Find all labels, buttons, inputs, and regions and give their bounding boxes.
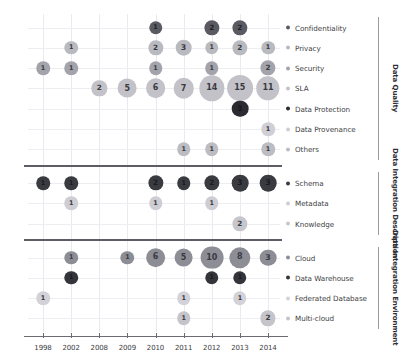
data-bubble: 14 xyxy=(199,76,224,101)
legend-label: Privacy xyxy=(295,43,321,52)
data-bubble: 1 xyxy=(233,271,247,285)
legend-item[interactable]: Confidentiality xyxy=(286,23,347,32)
data-bubble: 2 xyxy=(260,311,275,326)
legend-dot-icon xyxy=(286,222,290,226)
gridline-horizontal xyxy=(28,149,280,150)
legend-label: Metadata xyxy=(295,199,329,208)
x-axis-label: 2014 xyxy=(259,344,276,352)
legend-dot-icon xyxy=(286,107,290,111)
legend-dot-icon xyxy=(286,46,290,50)
data-bubble: 2 xyxy=(232,20,247,35)
legend-label: Cloud xyxy=(295,253,315,262)
group-title: Data Integration Environment xyxy=(384,247,406,330)
legend-label: Federated Database xyxy=(295,294,367,303)
data-bubble: 1 xyxy=(205,143,219,157)
data-bubble: 1 xyxy=(177,312,191,326)
x-axis-tick xyxy=(99,333,100,338)
group-title: Data Quality xyxy=(384,17,406,161)
data-bubble: 1 xyxy=(64,41,78,55)
legend-item[interactable]: Schema xyxy=(286,179,324,188)
x-axis-label: 2010 xyxy=(147,344,164,352)
legend-label: Data Warehouse xyxy=(295,273,354,282)
x-axis-label: 2002 xyxy=(62,344,79,352)
group-bracket xyxy=(378,172,379,235)
legend-dot-icon xyxy=(286,256,290,260)
data-bubble: 7 xyxy=(173,78,194,99)
data-bubble: 2 xyxy=(148,175,163,190)
legend-dot-icon xyxy=(286,66,290,70)
data-bubble: 10 xyxy=(200,246,223,269)
legend-dot-icon xyxy=(286,147,290,151)
data-bubble: 2 xyxy=(232,40,247,55)
group-bracket xyxy=(378,17,379,161)
data-bubble: 1 xyxy=(177,143,191,157)
x-axis-label: 2011 xyxy=(175,344,192,352)
gridline-horizontal xyxy=(28,129,280,130)
data-bubble: 2 xyxy=(92,81,107,96)
bubble-chart: 1221231211111225671415113111111212331112… xyxy=(0,0,407,363)
data-bubble: 3 xyxy=(232,175,249,192)
legend-label: Security xyxy=(295,64,324,73)
legend-label: Multi-cloud xyxy=(295,314,334,323)
data-bubble: 2 xyxy=(148,40,163,55)
data-bubble: 2 xyxy=(204,20,219,35)
legend-dot-icon xyxy=(286,181,290,185)
x-axis-tick xyxy=(156,333,157,338)
x-axis-tick xyxy=(184,333,185,338)
data-bubble: 1 xyxy=(149,61,163,75)
data-bubble: 1 xyxy=(261,143,275,157)
legend-dot-icon xyxy=(286,127,290,131)
x-axis-tick xyxy=(43,333,44,338)
legend-item[interactable]: Data Warehouse xyxy=(286,273,354,282)
data-bubble: 11 xyxy=(256,77,279,100)
group-divider xyxy=(24,239,282,241)
data-bubble: 1 xyxy=(261,41,275,55)
legend-item[interactable]: Cloud xyxy=(286,253,315,262)
data-bubble: 2 xyxy=(204,175,219,190)
gridline-vertical xyxy=(127,14,128,332)
x-axis-tick xyxy=(212,333,213,338)
data-bubble: 1 xyxy=(64,251,78,265)
legend-label: SLA xyxy=(295,84,309,93)
data-bubble: 1 xyxy=(36,61,50,75)
data-bubble: 2 xyxy=(260,60,275,75)
data-bubble: 8 xyxy=(229,247,250,268)
data-bubble: 15 xyxy=(227,75,253,101)
group-title: Data Integration Description xyxy=(384,172,406,235)
data-bubble: 1 xyxy=(205,61,219,75)
legend-dot-icon xyxy=(286,316,290,320)
legend-item[interactable]: Data Provenance xyxy=(286,125,356,134)
legend-item[interactable]: Privacy xyxy=(286,43,321,52)
data-bubble: 1 xyxy=(64,197,78,211)
x-axis-label: 2012 xyxy=(203,344,220,352)
legend-dot-icon xyxy=(286,276,290,280)
legend-item[interactable]: Others xyxy=(286,145,319,154)
data-bubble: 1 xyxy=(177,291,191,305)
legend-item[interactable]: Multi-cloud xyxy=(286,314,334,323)
x-axis-tick xyxy=(127,333,128,338)
legend-dot-icon xyxy=(286,26,290,30)
legend-item[interactable]: Data Protection xyxy=(286,104,350,113)
gridline-horizontal xyxy=(28,318,280,319)
data-bubble: 1 xyxy=(261,122,275,136)
legend-item[interactable]: SLA xyxy=(286,84,309,93)
data-bubble: 6 xyxy=(146,248,166,268)
data-bubble: 1 xyxy=(36,176,50,190)
x-axis-tick xyxy=(268,333,269,338)
data-bubble: 1 xyxy=(205,271,219,285)
data-bubble: 3 xyxy=(232,100,249,117)
legend-item[interactable]: Metadata xyxy=(286,199,329,208)
data-bubble: 5 xyxy=(174,248,193,267)
data-bubble: 1 xyxy=(233,291,247,305)
legend-item[interactable]: Knowledge xyxy=(286,219,334,228)
data-bubble: 1 xyxy=(64,61,78,75)
legend-label: Others xyxy=(295,145,319,154)
data-bubble: 1 xyxy=(205,41,219,55)
legend-item[interactable]: Security xyxy=(286,64,324,73)
data-bubble: 1 xyxy=(205,197,219,211)
x-axis-label: 2009 xyxy=(119,344,136,352)
group-divider xyxy=(24,165,282,167)
x-axis-tick xyxy=(71,333,72,338)
data-bubble: 3 xyxy=(175,39,192,56)
legend-item[interactable]: Federated Database xyxy=(286,294,367,303)
